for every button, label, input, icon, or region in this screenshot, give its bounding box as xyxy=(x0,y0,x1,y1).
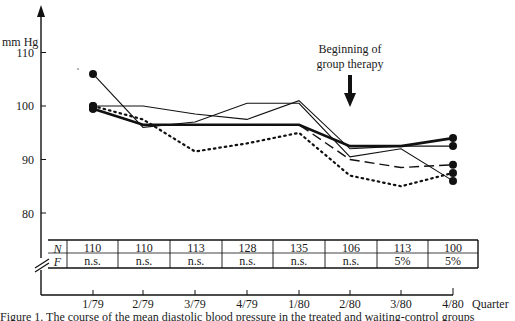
x-tick-label: 2/80 xyxy=(330,298,370,310)
x-tick-label: 4/79 xyxy=(227,298,267,310)
table-cell-f: n.s. xyxy=(222,255,273,267)
table-cell-n: 128 xyxy=(222,242,273,254)
table-cell-f: n.s. xyxy=(273,255,325,267)
y-tick-label: 90 xyxy=(4,154,34,166)
data-point-marker xyxy=(449,142,457,150)
table-cell-f: n.s. xyxy=(170,255,222,267)
y-axis-arrow-icon xyxy=(37,5,45,17)
x-tick-label: 3/80 xyxy=(381,298,421,310)
series-line xyxy=(93,74,453,181)
x-tick-label: 1/79 xyxy=(73,298,113,310)
data-point-marker xyxy=(449,177,457,185)
table-row-label-n: N xyxy=(48,243,67,255)
x-tick-label: 1/80 xyxy=(279,298,319,310)
figure-caption: Figure 1. The course of the mean diastol… xyxy=(0,311,515,321)
table-cell-f: 5% xyxy=(377,255,428,267)
table-cell-n: 110 xyxy=(118,242,170,254)
data-point-marker xyxy=(449,161,457,169)
x-axis-label: Quarter xyxy=(472,298,509,310)
x-tick-label: 4/80 xyxy=(433,298,473,310)
y-tick-label: 110 xyxy=(4,47,34,59)
table-row-label-f: F xyxy=(48,256,67,268)
y-tick-label: 80 xyxy=(4,208,34,220)
table-cell-n: 100 xyxy=(428,242,478,254)
data-point-marker xyxy=(449,169,457,177)
table-cell-f: 5% xyxy=(428,255,478,267)
table-cell-f: n.s. xyxy=(67,255,118,267)
therapy-annotation: Beginning of group therapy xyxy=(290,42,410,72)
table-cell-n: 106 xyxy=(325,242,377,254)
data-point-marker xyxy=(89,70,97,78)
x-tick-label: 3/79 xyxy=(175,298,215,310)
annotation-line-2: group therapy xyxy=(290,57,410,72)
x-tick-label: 2/79 xyxy=(123,298,163,310)
data-point-marker xyxy=(449,134,457,142)
table-cell-f: n.s. xyxy=(118,255,170,267)
axis-break-icon xyxy=(35,259,49,268)
table-cell-n: 113 xyxy=(377,242,428,254)
table-cell-f: n.s. xyxy=(325,255,377,267)
table-cell-n: 110 xyxy=(67,242,118,254)
table-cell-n: 113 xyxy=(170,242,222,254)
y-tick-label: 100 xyxy=(4,100,34,112)
table-cell-n: 135 xyxy=(273,242,325,254)
annotation-line-1: Beginning of xyxy=(290,42,410,57)
down-arrow-icon xyxy=(344,75,356,107)
data-point-marker xyxy=(89,102,97,110)
